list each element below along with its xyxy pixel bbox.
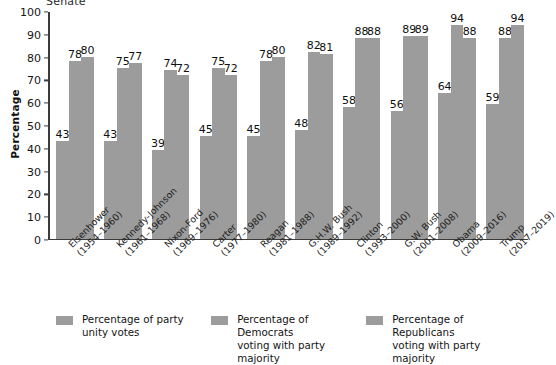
plot-area: 0102030405060708090100 43788043757739747…: [48, 12, 528, 240]
bar: 88: [463, 38, 476, 239]
bar: 94: [451, 25, 464, 239]
legend-item: Percentage of Republicansvoting with par…: [366, 313, 526, 365]
bar-value-label: 81: [319, 42, 333, 53]
y-tick-mark: [44, 148, 49, 149]
x-axis-labels: Eisenhower(1954–1960)Kennedy-Johnson(196…: [48, 242, 528, 308]
bar: 72: [225, 75, 238, 239]
y-tick-mark: [44, 194, 49, 195]
bar-value-label: 58: [342, 95, 356, 106]
bar-value-label: 80: [272, 45, 286, 56]
y-tick-mark: [44, 103, 49, 104]
legend-swatch-icon: [211, 316, 228, 325]
bar-value-label: 88: [498, 26, 512, 37]
bar: 43: [56, 141, 69, 239]
y-tick-mark: [44, 11, 49, 12]
bar: 78: [69, 61, 82, 239]
y-axis-label: Percentage: [9, 79, 21, 169]
bar-value-label: 56: [390, 99, 404, 110]
y-tick-mark: [44, 34, 49, 35]
bar-value-label: 43: [103, 129, 117, 140]
bar-value-label: 72: [176, 63, 190, 74]
bar: 94: [511, 25, 524, 239]
bar: 81: [320, 54, 333, 239]
bar-value-label: 88: [463, 26, 477, 37]
y-tick-mark: [44, 57, 49, 58]
bar-value-label: 72: [224, 63, 238, 74]
bar-value-label: 39: [151, 138, 165, 149]
bar-value-label: 89: [415, 24, 429, 35]
bar: 77: [129, 63, 142, 239]
legend-swatch-icon: [56, 316, 73, 325]
legend-item: Percentage of partyunity votes: [56, 313, 211, 339]
bar-group: 437880: [55, 12, 95, 239]
bar-value-label: 77: [128, 51, 142, 62]
chart-legend: Percentage of partyunity votesPercentage…: [56, 313, 526, 345]
bar-value-label: 64: [438, 81, 452, 92]
bar: 89: [416, 36, 429, 239]
legend-label: Percentage of Republicansvoting with par…: [392, 313, 526, 365]
legend-label: Percentage of partyunity votes: [82, 313, 184, 339]
legend-item: Percentage of Democratsvoting with party…: [211, 313, 366, 365]
y-tick-mark: [44, 125, 49, 126]
bar-value-label: 88: [367, 26, 381, 37]
chart-title: Senate: [46, 0, 86, 8]
bar-value-label: 59: [485, 92, 499, 103]
bar-value-label: 45: [199, 124, 213, 135]
bar-value-label: 94: [510, 13, 524, 24]
legend-swatch-icon: [366, 316, 383, 325]
bar-groups: 4378804375773974724575724578804882815888…: [49, 12, 528, 239]
bar: 72: [177, 75, 190, 239]
bar: 80: [272, 57, 285, 239]
bar-value-label: 45: [247, 124, 261, 135]
bar-value-label: 43: [56, 129, 70, 140]
legend-label: Percentage of Democratsvoting with party…: [237, 313, 366, 365]
bar-value-label: 48: [294, 118, 308, 129]
bar: 80: [81, 57, 94, 239]
bar-value-label: 80: [81, 45, 95, 56]
y-tick-mark: [44, 239, 49, 240]
y-tick-mark: [44, 80, 49, 81]
bar-value-label: 94: [450, 13, 464, 24]
y-tick-mark: [44, 217, 49, 218]
y-tick-mark: [44, 171, 49, 172]
bar: 88: [368, 38, 381, 239]
